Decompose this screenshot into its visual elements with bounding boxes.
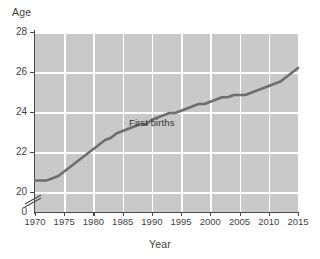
series-layer (0, 0, 320, 259)
chart-container: Age 28 26 24 22 20 0 1970 1975 (0, 0, 320, 259)
x-axis-title: Year (0, 238, 320, 250)
annotation-first-births: First births (129, 117, 175, 128)
